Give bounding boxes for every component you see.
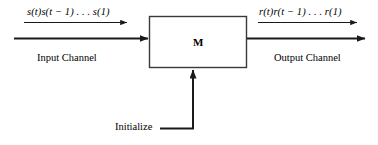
- output-sequence-label: r(t)r(t − 1) . . . r(1): [259, 7, 342, 18]
- initialize-label: Initialize: [115, 122, 152, 133]
- block-diagram-figure: s(t)s(t − 1) . . . s(1) Input Channel r(…: [0, 0, 378, 145]
- output-channel-label: Output Channel: [274, 53, 341, 64]
- input-sequence-label: s(t)s(t − 1) . . . s(1): [27, 7, 110, 18]
- initialize-arrow: [160, 70, 193, 129]
- input-channel-label: Input Channel: [37, 53, 97, 64]
- machine-box-label: M: [193, 37, 203, 48]
- diagram-lines-layer: [0, 0, 378, 145]
